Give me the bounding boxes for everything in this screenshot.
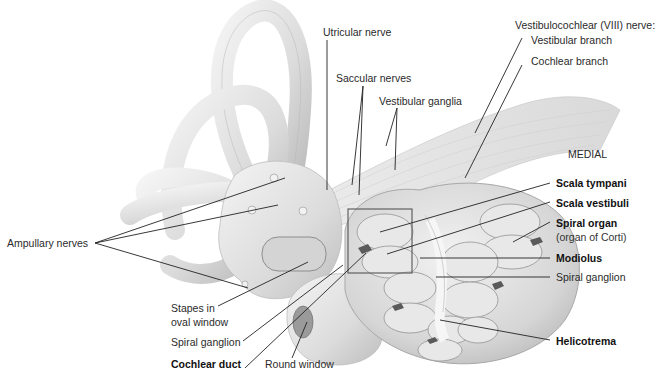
label-medial: MEDIAL (568, 148, 607, 160)
label-helicotrema: Helicotrema (556, 335, 616, 347)
label-spiral-ganglion-right: Spiral ganglion (556, 271, 625, 283)
label-cochlear-duct: Cochlear duct (171, 358, 241, 370)
label-scala-vestibuli: Scala vestibuli (556, 197, 629, 209)
label-stapes-line2: oval window (171, 316, 228, 328)
label-round-window: Round window (265, 358, 334, 370)
label-ampullary-nerves: Ampullary nerves (7, 237, 88, 249)
round-window-shape (293, 306, 313, 338)
label-utricular-nerve: Utricular nerve (323, 26, 391, 38)
label-stapes-line1: Stapes in (171, 302, 215, 314)
label-vestibular-ganglia: Vestibular ganglia (379, 95, 462, 107)
inner-ear-diagram: Utricular nerve Vestibulocochlear (VIII)… (0, 0, 661, 378)
label-spiral-organ: Spiral organ (556, 217, 617, 229)
label-spiral-ganglion-left: Spiral ganglion (171, 336, 240, 348)
label-scala-tympani: Scala tympani (556, 177, 627, 189)
label-modiolus: Modiolus (556, 252, 602, 264)
label-vestibulocochlear-nerve: Vestibulocochlear (VIII) nerve: (515, 19, 655, 31)
label-saccular-nerves: Saccular nerves (336, 72, 411, 84)
label-vestibular-branch: Vestibular branch (531, 34, 612, 46)
oval-window (262, 237, 326, 271)
label-cochlear-branch: Cochlear branch (531, 55, 608, 67)
label-organ-of-corti: (organ of Corti) (556, 231, 627, 243)
